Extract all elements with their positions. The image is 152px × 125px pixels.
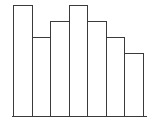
bar-3 [50,21,70,117]
bar-chart [0,0,152,125]
bar-7 [124,53,144,117]
bar-4 [69,5,89,117]
bar-1 [13,5,33,117]
x-axis-baseline [12,116,147,117]
bar-6 [106,37,126,117]
bar-2 [32,37,52,117]
bar-5 [87,21,107,117]
